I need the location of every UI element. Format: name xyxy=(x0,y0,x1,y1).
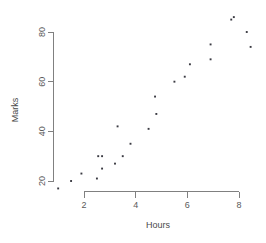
data-point xyxy=(246,31,248,33)
y-axis-title: Marks xyxy=(10,97,20,122)
data-point xyxy=(155,113,157,115)
x-axis-tick-label: 4 xyxy=(133,200,138,210)
y-axis-tick-label: 60 xyxy=(37,77,47,87)
data-point xyxy=(250,46,252,48)
data-point xyxy=(117,125,119,127)
data-point xyxy=(80,173,82,175)
data-point xyxy=(189,63,191,65)
data-point xyxy=(57,188,59,190)
data-point xyxy=(233,16,235,18)
data-point xyxy=(101,168,103,170)
data-point xyxy=(154,96,156,98)
data-point xyxy=(148,128,150,130)
x-axis-tick-label: 6 xyxy=(185,200,190,210)
x-axis-tick-label: 2 xyxy=(81,200,86,210)
data-point xyxy=(114,163,116,165)
data-point xyxy=(70,180,72,182)
data-point xyxy=(210,43,212,45)
x-axis-tick-labels: 2468 xyxy=(81,200,241,210)
data-point xyxy=(173,81,175,83)
x-axis: 2468 xyxy=(81,192,241,211)
data-point xyxy=(122,155,124,157)
y-axis: 20406080 xyxy=(37,27,54,186)
y-axis-ticks xyxy=(48,32,54,181)
plot-canvas: 20406080 2468 Hours Marks xyxy=(0,0,266,243)
scatter-plot-figure: 20406080 2468 Hours Marks xyxy=(0,0,266,243)
x-axis-title: Hours xyxy=(146,220,171,230)
data-point xyxy=(230,19,232,21)
y-axis-tick-label: 80 xyxy=(37,27,47,37)
data-point xyxy=(130,143,132,145)
data-point-series xyxy=(57,16,251,189)
y-axis-tick-label: 20 xyxy=(37,176,47,186)
y-axis-tick-labels: 20406080 xyxy=(37,27,47,186)
data-point xyxy=(96,178,98,180)
data-point xyxy=(210,58,212,60)
data-point xyxy=(184,76,186,78)
x-axis-ticks xyxy=(84,192,239,198)
y-axis-tick-label: 40 xyxy=(37,126,47,136)
x-axis-tick-label: 8 xyxy=(236,200,241,210)
data-point xyxy=(101,155,103,157)
data-point xyxy=(97,155,99,157)
